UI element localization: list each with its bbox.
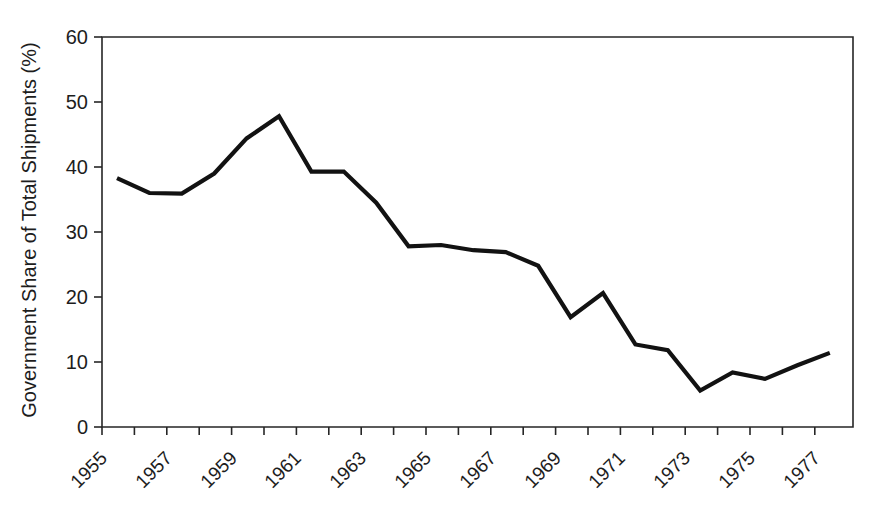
data-line-government-share xyxy=(117,116,830,390)
chart-container: Government Share of Total Shipments (%) … xyxy=(0,0,873,510)
x-axis-ticks xyxy=(102,427,815,435)
axis-frame xyxy=(102,37,853,427)
y-axis-ticks xyxy=(94,37,102,427)
plot-area xyxy=(0,0,873,510)
